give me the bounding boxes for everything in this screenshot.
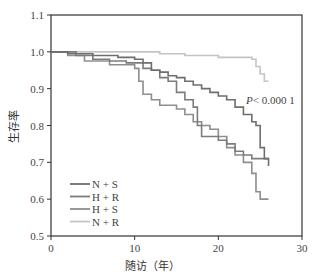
y-tick-label: 0.9 — [30, 83, 44, 95]
legend-item: N + S — [70, 178, 118, 190]
y-tick-label: 0.8 — [30, 120, 44, 132]
survival-chart: 0.50.60.70.80.91.01.1 0102030 P< 0.000 1… — [0, 0, 313, 276]
y-axis: 0.50.60.70.80.91.01.1 — [30, 9, 51, 242]
p-value-annotation: P< 0.000 1 — [245, 94, 295, 106]
x-axis: 0102030 — [48, 236, 308, 254]
x-tick-label: 0 — [48, 242, 54, 254]
y-tick-label: 0.7 — [30, 156, 44, 168]
legend-item: N + R — [70, 216, 120, 228]
legend-label: H + R — [92, 191, 120, 203]
y-axis-title: 生存率 — [7, 110, 21, 143]
x-tick-label: 30 — [297, 242, 309, 254]
curve-ns — [51, 52, 269, 166]
x-axis-title: 随访（年） — [125, 259, 180, 273]
plot-frame — [51, 15, 302, 236]
legend-item: H + S — [70, 203, 118, 215]
legend-item: H + R — [70, 191, 120, 203]
survival-curves — [51, 52, 269, 199]
y-tick-label: 1.1 — [30, 9, 44, 21]
x-tick-label: 20 — [213, 242, 225, 254]
legend-label: H + S — [92, 203, 118, 215]
legend-label: N + R — [92, 216, 120, 228]
legend: N + SH + RH + SN + R — [70, 178, 120, 228]
y-tick-label: 0.5 — [30, 230, 44, 242]
y-tick-label: 1.0 — [30, 46, 44, 58]
y-tick-label: 0.6 — [30, 193, 44, 205]
legend-label: N + S — [92, 178, 118, 190]
x-tick-label: 10 — [129, 242, 141, 254]
